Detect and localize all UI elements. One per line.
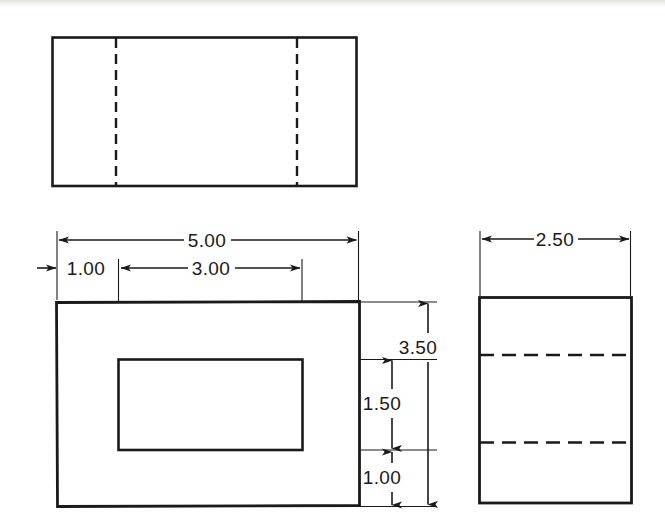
top-view-outline (53, 38, 357, 187)
top-view (53, 38, 357, 187)
dimension-label-overall-width: 5.00 (188, 230, 227, 251)
front-view-cutout (119, 360, 303, 451)
orthographic-drawing-canvas: 5.00 1.00 3.00 3.50 1.50 (0, 0, 665, 526)
front-view (57, 302, 360, 507)
dimension-cutout-width: 3.00 (121, 258, 300, 279)
dimension-label-cutout-width: 3.00 (192, 258, 231, 279)
dimension-overall-height: 3.50 (399, 304, 438, 505)
side-view (480, 298, 632, 504)
dimension-label-cutout-height: 1.50 (363, 393, 402, 414)
dimension-label-lower-wall-height: 1.00 (363, 467, 402, 488)
dimension-depth: 2.50 (482, 229, 629, 250)
dimension-label-overall-height: 3.50 (399, 337, 438, 358)
dimension-overall-width: 5.00 (59, 230, 357, 251)
dimension-lower-wall-height: 1.00 (363, 452, 402, 505)
side-view-outline (480, 298, 632, 504)
dimension-label-depth: 2.50 (536, 229, 575, 250)
dimension-label-left-wall-width: 1.00 (67, 258, 106, 279)
drawing-sheet: 5.00 1.00 3.00 3.50 1.50 (0, 0, 665, 526)
dimension-cutout-height: 1.50 (363, 361, 402, 449)
dimension-left-wall-width: 1.00 (37, 258, 105, 279)
